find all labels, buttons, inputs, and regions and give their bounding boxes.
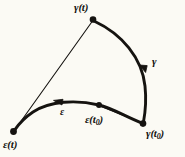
label-epsilon-t0: ε(t0) [85,114,103,127]
label-epsilon-t0-main: ε(t [85,113,96,125]
label-gamma-t: γ(t) [74,2,88,13]
label-gamma-t0-close: ) [160,127,163,139]
epsilon-t-point [10,128,17,135]
chord-gamma-epsilon [14,21,93,131]
label-epsilon-t0-close: ) [99,113,102,125]
label-epsilon-t: ε(t) [3,139,17,150]
epsilon-t0-point [96,102,102,108]
label-gamma-t0: γ(t0) [146,128,164,141]
label-epsilon: ε [60,107,64,117]
figure-canvas: γ(t) γ γ(t0) ε(t0) ε ε(t) [0,0,185,157]
epsilon-curve [14,102,142,131]
label-gamma: γ [152,56,156,67]
gamma-t-point [90,16,97,23]
gamma-t0-point [140,120,147,127]
label-gamma-t0-main: γ(t [146,127,157,139]
